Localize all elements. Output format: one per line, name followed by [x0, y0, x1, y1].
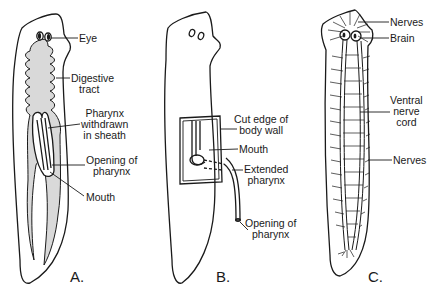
label-brain: Brain — [390, 33, 415, 44]
panel-c-drawing — [322, 10, 392, 276]
label-mouth-a: Mouth — [86, 192, 115, 203]
label-pharynx-withdrawn: Pharynx withdrawn in sheath — [81, 108, 128, 141]
label-nerves-bottom: Nerves — [393, 155, 426, 166]
planarian-figure — [0, 0, 437, 292]
label-opening-of-pharynx-a: Opening of pharynx — [86, 155, 137, 177]
panel-letter-b: B. — [216, 268, 230, 285]
label-line: pharynx — [245, 229, 296, 240]
label-line: pharynx — [244, 175, 288, 186]
label-eye: Eye — [79, 33, 97, 44]
label-line: in sheath — [81, 130, 128, 141]
label-mouth-b: Mouth — [239, 144, 268, 155]
label-nerves-top: Nerves — [390, 17, 423, 28]
panel-letter-a: A. — [70, 268, 84, 285]
panel-letter-c: C. — [368, 268, 383, 285]
label-line: body wall — [234, 125, 288, 136]
label-line: cord — [390, 117, 423, 128]
label-cut-edge-body-wall: Cut edge of body wall — [234, 114, 288, 136]
label-line: pharynx — [86, 166, 137, 177]
panel-b-drawing — [165, 12, 248, 283]
label-line: tract — [71, 84, 114, 95]
label-extended-pharynx: Extended pharynx — [244, 164, 288, 186]
label-digestive-tract: Digestive tract — [71, 73, 114, 95]
label-opening-of-pharynx-b: Opening of pharynx — [245, 218, 296, 240]
label-ventral-nerve-cord: Ventral nerve cord — [390, 95, 423, 128]
panel-a-drawing — [13, 14, 85, 283]
